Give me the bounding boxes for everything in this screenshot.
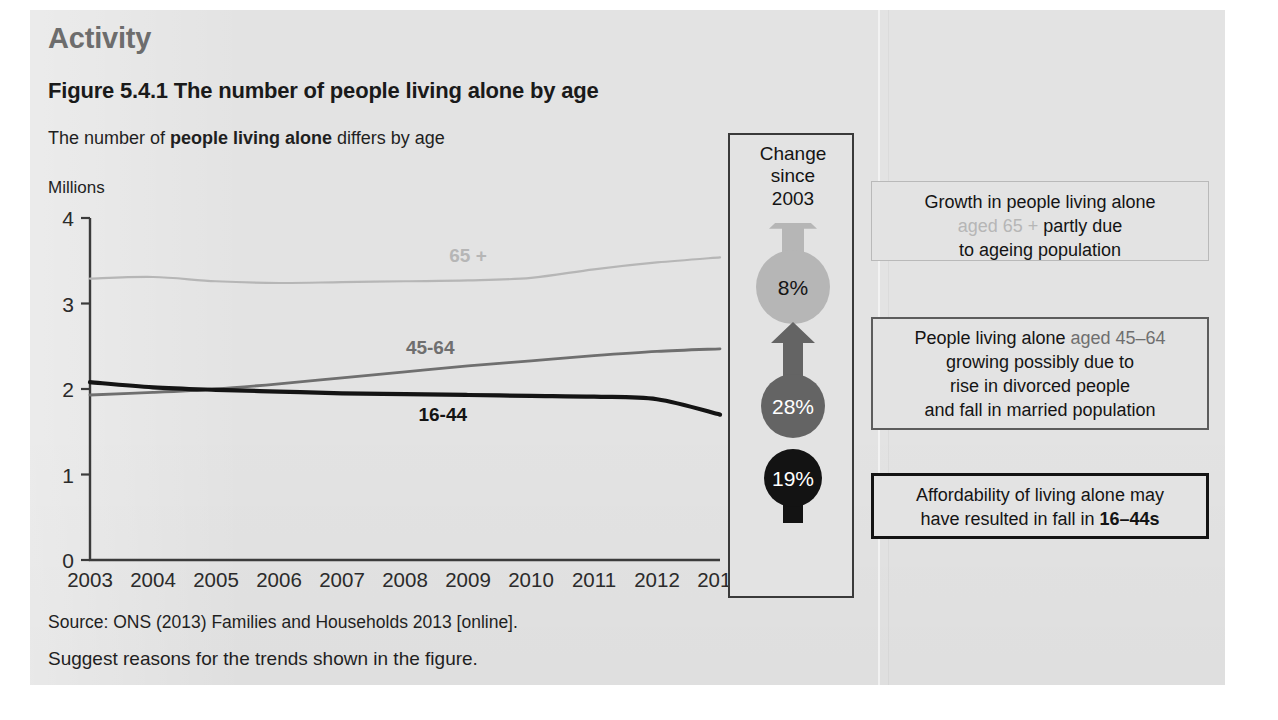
change-since-panel: Change since 2003 8%28%19% bbox=[728, 133, 854, 598]
series-label-16-44: 16-44 bbox=[418, 404, 467, 425]
x-tick-label: 2005 bbox=[193, 568, 239, 591]
change-item-8pct: 8% bbox=[756, 223, 830, 324]
subtitle-emphasis: people living alone bbox=[170, 128, 332, 148]
subtitle-part-1: The number of bbox=[48, 128, 170, 148]
subtitle-part-2: differs by age bbox=[332, 128, 445, 148]
callout2-accent: aged 45–64 bbox=[1071, 328, 1166, 348]
change-heading-line-3: 2003 bbox=[730, 188, 856, 210]
callout-16-44: Affordability of living alone may have r… bbox=[871, 473, 1209, 539]
callout3-line2: have resulted in fall in 16–44s bbox=[874, 508, 1206, 532]
callout2-line2: growing possibly due to bbox=[873, 351, 1207, 375]
chart-subtitle: The number of people living alone differ… bbox=[48, 128, 445, 149]
x-tick-label: 2003 bbox=[67, 568, 113, 591]
change-heading-line-2: since bbox=[730, 165, 856, 187]
y-tick-label: 4 bbox=[62, 207, 74, 230]
callout2-line1-pre: People living alone bbox=[914, 328, 1070, 348]
series-line-16-44 bbox=[90, 382, 720, 414]
x-tick-label: 2004 bbox=[130, 568, 176, 591]
change-item-19pct: 19% bbox=[764, 449, 822, 523]
series-label-65-: 65 + bbox=[449, 245, 487, 266]
y-tick-label: 2 bbox=[62, 378, 74, 401]
series-label-45-64: 45-64 bbox=[406, 337, 455, 358]
x-tick-label: 2011 bbox=[572, 568, 616, 591]
change-heading-line-1: Change bbox=[730, 143, 856, 165]
y-tick-label: 1 bbox=[62, 464, 74, 487]
line-chart: 0123420032004200520062007200820092010201… bbox=[48, 205, 728, 595]
y-axis-title: Millions bbox=[48, 178, 105, 198]
callout1-line1: Growth in people living alone bbox=[872, 191, 1208, 215]
callout-45-64: People living alone aged 45–64 growing p… bbox=[871, 317, 1209, 430]
task-prompt: Suggest reasons for the trends shown in … bbox=[48, 648, 478, 670]
change-value-label: 8% bbox=[778, 276, 808, 299]
y-tick-label: 3 bbox=[62, 293, 74, 316]
activity-heading: Activity bbox=[48, 22, 151, 55]
x-tick-label: 2008 bbox=[382, 568, 428, 591]
callout2-line1: People living alone aged 45–64 bbox=[873, 327, 1207, 351]
callout2-line4: and fall in married population bbox=[873, 399, 1207, 423]
callout2-line3: rise in divorced people bbox=[873, 375, 1207, 399]
callout1-line2-post: partly due bbox=[1038, 216, 1122, 236]
change-item-28pct: 28% bbox=[761, 322, 825, 438]
change-value-label: 28% bbox=[772, 395, 814, 418]
x-tick-label: 2007 bbox=[319, 568, 365, 591]
x-tick-label: 2012 bbox=[634, 568, 680, 591]
callout1-line2: aged 65 + partly due bbox=[872, 215, 1208, 239]
figure-title: Figure 5.4.1 The number of people living… bbox=[48, 78, 599, 104]
chart-canvas: 0123420032004200520062007200820092010201… bbox=[48, 205, 728, 595]
change-arrow-group: 8%28%19% bbox=[730, 223, 856, 523]
change-panel-heading: Change since 2003 bbox=[730, 143, 856, 210]
change-arrows-canvas: 8%28%19% bbox=[730, 223, 856, 523]
callout3-line1: Affordability of living alone may bbox=[874, 484, 1206, 508]
change-value-label: 19% bbox=[772, 467, 814, 490]
callout1-accent: aged 65 + bbox=[958, 216, 1039, 236]
x-tick-label: 2006 bbox=[256, 568, 302, 591]
callout3-line2-pre: have resulted in fall in bbox=[920, 509, 1099, 529]
source-note: Source: ONS (2013) Families and Househol… bbox=[48, 612, 518, 633]
page-root: Activity Figure 5.4.1 The number of peop… bbox=[0, 0, 1278, 720]
callout-65-plus: Growth in people living alone aged 65 + … bbox=[871, 181, 1209, 261]
x-tick-label: 2010 bbox=[508, 568, 554, 591]
callout3-accent: 16–44s bbox=[1100, 509, 1160, 529]
x-tick-label: 2009 bbox=[445, 568, 491, 591]
series-line-65- bbox=[90, 257, 720, 283]
x-tick-label: 2013 bbox=[697, 568, 728, 591]
callout1-line3: to ageing population bbox=[872, 239, 1208, 263]
